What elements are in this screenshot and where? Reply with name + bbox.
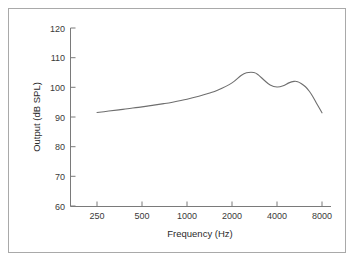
x-tick-label-1000: 1000 bbox=[177, 211, 197, 221]
y-tick-label-100: 100 bbox=[50, 83, 65, 93]
x-tick-marks bbox=[97, 202, 322, 207]
line-chart: 120 110 100 90 80 70 60 250 500 1000 200… bbox=[0, 0, 355, 263]
figure-container: 120 110 100 90 80 70 60 250 500 1000 200… bbox=[0, 0, 355, 263]
x-tick-label-8000: 8000 bbox=[312, 211, 332, 221]
y-tick-label-80: 80 bbox=[55, 142, 65, 152]
x-tick-label-4000: 4000 bbox=[267, 211, 287, 221]
output-response-curve bbox=[97, 72, 322, 113]
y-tick-label-60: 60 bbox=[55, 202, 65, 212]
y-tick-label-110: 110 bbox=[51, 53, 65, 63]
x-tick-label-2000: 2000 bbox=[222, 211, 242, 221]
x-tick-label-500: 500 bbox=[134, 211, 149, 221]
y-tick-marks bbox=[71, 28, 76, 206]
y-axis-title: Output (dB SPL) bbox=[31, 82, 42, 152]
x-axis-title: Frequency (Hz) bbox=[167, 228, 232, 239]
y-tick-label-120: 120 bbox=[50, 24, 65, 34]
y-tick-label-90: 90 bbox=[55, 113, 65, 123]
x-tick-label-250: 250 bbox=[89, 211, 104, 221]
y-tick-label-70: 70 bbox=[55, 172, 65, 182]
